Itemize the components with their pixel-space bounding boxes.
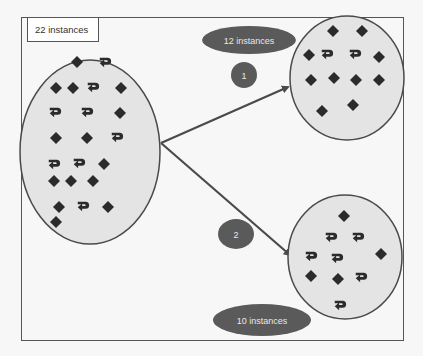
source-cluster <box>20 56 160 244</box>
arrow-to-cluster-1 <box>161 87 288 143</box>
cluster-1-badge-number: 1 <box>241 71 246 81</box>
source-label: 22 instances <box>35 24 89 35</box>
clustering-diagram: 22 instances 12 instances 1 2 10 instanc… <box>0 0 423 356</box>
cluster-1-label: 12 instances <box>224 36 275 46</box>
cluster-2-label: 10 instances <box>237 316 288 326</box>
cluster-1-label-pill: 12 instances <box>202 26 296 54</box>
cluster-2 <box>288 195 402 319</box>
cluster-1-badge: 1 <box>231 62 257 88</box>
source-label-box: 22 instances <box>28 18 99 42</box>
cluster-2-badge-number: 2 <box>233 230 238 240</box>
cluster-2-badge: 2 <box>218 219 254 249</box>
cluster-1 <box>290 16 404 140</box>
cluster-2-label-pill: 10 instances <box>213 304 311 336</box>
